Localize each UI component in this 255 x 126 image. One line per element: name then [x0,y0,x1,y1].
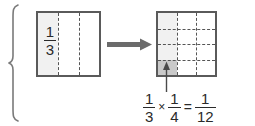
factor-1-denominator: 3 [143,107,155,124]
multiplication-operator: × [155,100,168,114]
fraction-one-third: 1 3 [44,24,56,57]
fraction-multiplication-equation: 1 3 × 1 4 = 1 12 [143,90,255,124]
fraction-numerator: 1 [44,24,56,40]
factor-2-numerator: 1 [168,91,180,107]
equals-sign: = [181,99,195,115]
diagram-canvas: 1 3 1 3 × [0,0,255,126]
right-divider-h1 [158,29,215,30]
transform-arrow-icon [107,37,152,50]
equation-factor-2: 1 4 [168,91,180,124]
left-fraction-label: 1 3 [40,24,60,57]
fraction-denominator: 3 [44,40,56,57]
right-divider-h2 [158,44,215,45]
factor-2-denominator: 4 [168,107,180,124]
product-numerator: 1 [199,91,211,107]
left-divider-2 [79,13,80,75]
factor-1-numerator: 1 [143,91,155,107]
product-cell-callout-icon [160,60,174,92]
product-denominator: 12 [195,107,216,124]
equation-product: 1 12 [195,91,216,124]
equation-factor-1: 1 3 [143,91,155,124]
grouping-brace-icon [6,4,22,122]
